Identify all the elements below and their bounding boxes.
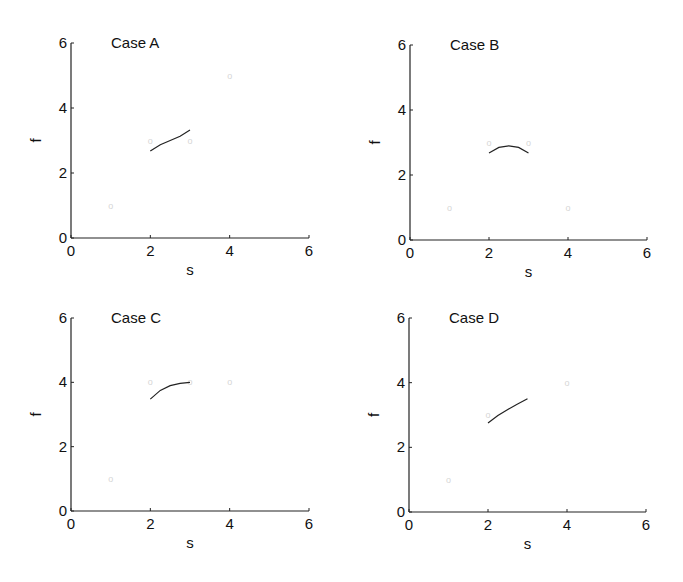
y-axis-label: f: [27, 138, 44, 143]
x-tick-label: 6: [305, 515, 313, 532]
data-point-marker: o: [148, 377, 153, 387]
x-axis-label: s: [524, 535, 532, 552]
x-tick-label: 0: [405, 516, 413, 533]
subplot-case-d: 02460246sfCase Dooo: [365, 309, 650, 552]
y-tick-label: 0: [397, 503, 405, 520]
fitted-curve: [150, 130, 190, 151]
y-tick-label: 2: [397, 438, 405, 455]
y-tick-label: 0: [398, 231, 406, 248]
data-point-marker: o: [447, 203, 452, 213]
y-axis-label: f: [365, 412, 382, 417]
subplot-title: Case A: [111, 34, 159, 51]
data-point-marker: o: [446, 475, 451, 485]
y-tick-label: 2: [398, 166, 406, 183]
fitted-curve: [150, 382, 190, 399]
x-axis-label: s: [186, 534, 194, 551]
x-axis-label: s: [525, 263, 533, 280]
data-point-marker: o: [108, 474, 113, 484]
x-tick-label: 6: [643, 244, 651, 261]
subplot-case-c: 02460246sfCase Coooo: [27, 309, 313, 551]
x-tick-label: 4: [564, 244, 572, 261]
subplot-case-b: 02460246sfCase Boooo: [366, 36, 651, 280]
y-tick-label: 6: [59, 309, 67, 326]
y-tick-label: 4: [59, 373, 67, 390]
y-tick-label: 6: [398, 36, 406, 53]
y-axis-label: f: [366, 140, 383, 145]
data-point-marker: o: [486, 138, 491, 148]
x-tick-label: 0: [406, 244, 414, 261]
data-point-marker: o: [148, 136, 153, 146]
x-tick-label: 0: [67, 242, 75, 259]
x-tick-label: 2: [485, 244, 493, 261]
subplot-title: Case B: [450, 36, 499, 53]
x-tick-label: 4: [563, 516, 571, 533]
figure: 02460246sfCase Aoooo 02460246sfCase Booo…: [0, 0, 683, 582]
subplot-case-a: 02460246sfCase Aoooo: [27, 34, 313, 278]
subplot-title: Case D: [449, 309, 499, 326]
y-tick-label: 0: [59, 502, 67, 519]
data-point-marker: o: [227, 71, 232, 81]
x-tick-label: 0: [67, 515, 75, 532]
x-tick-label: 2: [146, 515, 154, 532]
data-point-marker: o: [227, 377, 232, 387]
x-tick-label: 2: [484, 516, 492, 533]
y-tick-label: 2: [59, 438, 67, 455]
y-tick-label: 4: [397, 374, 405, 391]
y-tick-label: 6: [397, 309, 405, 326]
data-point-marker: o: [564, 378, 569, 388]
fitted-curve: [489, 146, 529, 153]
fitted-curve: [488, 399, 528, 423]
y-tick-label: 2: [59, 164, 67, 181]
data-point-marker: o: [485, 410, 490, 420]
x-tick-label: 6: [305, 242, 313, 259]
data-point-marker: o: [187, 136, 192, 146]
x-tick-label: 4: [225, 515, 233, 532]
y-tick-label: 0: [59, 229, 67, 246]
x-tick-label: 4: [225, 242, 233, 259]
x-tick-label: 2: [146, 242, 154, 259]
subplot-title: Case C: [111, 309, 161, 326]
data-point-marker: o: [526, 138, 531, 148]
x-tick-label: 6: [642, 516, 650, 533]
y-axis-label: f: [27, 412, 44, 417]
data-point-marker: o: [108, 201, 113, 211]
y-tick-label: 6: [59, 34, 67, 51]
data-point-marker: o: [565, 203, 570, 213]
y-tick-label: 4: [398, 101, 406, 118]
y-tick-label: 4: [59, 99, 67, 116]
x-axis-label: s: [186, 261, 194, 278]
